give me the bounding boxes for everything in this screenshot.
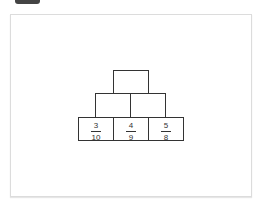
fraction: 4 9	[114, 121, 148, 142]
pyramid-bottom-cell-3: 5 8	[148, 117, 184, 141]
denominator: 8	[164, 133, 168, 142]
fraction-bar	[91, 131, 101, 132]
pyramid-top-cell	[113, 70, 149, 94]
denominator: 9	[129, 133, 133, 142]
fraction: 5 8	[149, 121, 183, 142]
numerator: 4	[129, 121, 133, 130]
pyramid-middle-cell-2	[130, 93, 166, 118]
fraction-bar	[126, 131, 136, 132]
numerator: 5	[164, 121, 168, 130]
fraction-bar	[161, 131, 171, 132]
pyramid-bottom-cell-2: 4 9	[113, 117, 149, 141]
pyramid-middle-cell-1	[95, 93, 131, 118]
denominator: 10	[92, 133, 101, 142]
fraction: 3 10	[79, 121, 113, 142]
header-tab	[15, 0, 40, 4]
numerator: 3	[94, 121, 98, 130]
pyramid-bottom-cell-1: 3 10	[78, 117, 114, 141]
